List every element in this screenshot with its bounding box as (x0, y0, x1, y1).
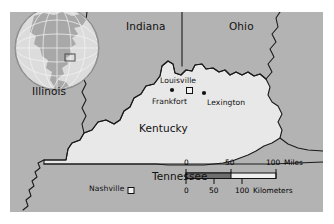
scale-km-tick-0: 0 (184, 186, 189, 195)
scale-miles-tick-50: 50 (225, 158, 234, 167)
city-label-nashville: Nashville (89, 184, 125, 193)
scale-km-tick-50: 50 (209, 186, 218, 195)
city-label-frankfort: Frankfort (152, 97, 187, 106)
scale-km-unit: Kilometers (253, 186, 293, 195)
city-marker-lexington (202, 91, 206, 95)
city-label-lexington: Lexington (207, 98, 245, 107)
map-frame: Indiana Ohio Illinois Kentucky Tennessee… (10, 12, 323, 212)
state-label-ohio: Ohio (229, 20, 254, 32)
city-label-louisville: Louisville (160, 76, 196, 85)
kentucky-reference-map: Indiana Ohio Illinois Kentucky Tennessee… (0, 0, 334, 224)
scale-miles-unit: Miles (284, 158, 303, 167)
state-label-tennessee: Tennessee (152, 170, 208, 182)
city-marker-louisville (170, 88, 174, 92)
capital-marker-frankfort (187, 88, 193, 94)
map-geometry (10, 12, 323, 212)
scale-miles-tick-0: 0 (184, 158, 189, 167)
state-label-illinois: Illinois (32, 85, 66, 97)
scale-km-tick-100: 100 (235, 186, 249, 195)
state-label-kentucky: Kentucky (139, 122, 188, 134)
scale-miles-tick-100: 100 (266, 158, 280, 167)
capital-marker-nashville (128, 188, 134, 194)
state-label-indiana: Indiana (126, 20, 166, 32)
